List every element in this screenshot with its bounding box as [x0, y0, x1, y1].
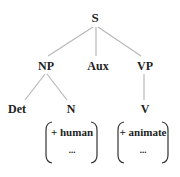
feature-matrix-v: + animate ... — [118, 122, 168, 163]
feature-matrix-n: + human ... — [46, 122, 97, 163]
edge-s-vp — [98, 27, 141, 56]
node-v: V — [141, 102, 150, 116]
feature-animate: + animate — [120, 126, 167, 138]
node-np: NP — [38, 59, 54, 73]
node-n: N — [67, 102, 76, 116]
node-s: S — [91, 10, 98, 25]
edge-np-n — [47, 74, 67, 100]
node-aux: Aux — [87, 59, 108, 73]
feature-ellipsis: ... — [140, 145, 147, 155]
edge-s-np — [48, 27, 93, 56]
node-det: Det — [8, 102, 26, 116]
feature-human: + human — [51, 126, 93, 138]
feature-ellipsis: ... — [69, 145, 76, 155]
syntax-tree-diagram: S NP Aux VP Det N V + human ... + animat… — [0, 0, 180, 177]
node-vp: VP — [137, 59, 153, 73]
edge-np-det — [25, 74, 45, 100]
